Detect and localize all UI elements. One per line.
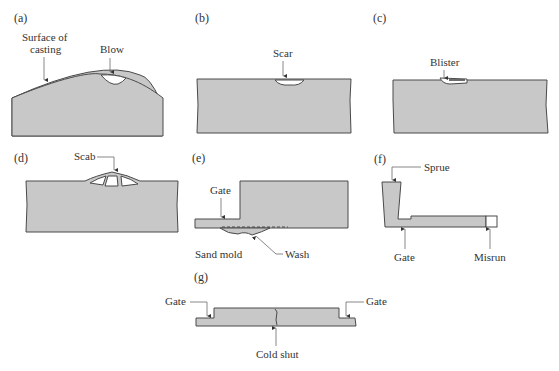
panel-c-blister: (c) Blister	[373, 11, 548, 133]
wash-region	[220, 228, 270, 235]
label-gate-right: Gate	[366, 295, 387, 307]
casting-body	[382, 182, 486, 227]
arrow-sprue	[392, 167, 421, 180]
panel-a-blow: (a) Surface of casting Blow	[12, 11, 163, 136]
arrow-scab	[97, 157, 114, 170]
label-surface-of: Surface of	[22, 31, 68, 43]
label-wash: Wash	[285, 248, 310, 260]
panel-label-a: (a)	[14, 11, 27, 25]
casting-body	[393, 80, 548, 133]
panel-label-b: (b)	[195, 11, 209, 25]
panel-label-f: (f)	[374, 152, 386, 166]
panel-e-wash: (e) Gate Sand mold Wash	[192, 151, 348, 260]
panel-label-e: (e)	[192, 151, 205, 165]
label-sand-mold: Sand mold	[195, 248, 243, 260]
panel-b-scar: (b) Scar	[195, 11, 351, 133]
label-misrun: Misrun	[474, 251, 506, 263]
label-blow: Blow	[100, 43, 124, 55]
arrow-gate-left	[190, 302, 207, 316]
panel-label-g: (g)	[194, 270, 208, 284]
label-cold-shut: Cold shut	[256, 348, 298, 360]
panel-f-misrun: (f) Sprue Gate Misrun	[374, 152, 506, 263]
panel-d-scab: (d) Scab	[14, 150, 178, 232]
panel-g-cold-shut: (g) Gate Gate Cold shut	[165, 270, 387, 360]
panel-label-d: (d)	[14, 151, 28, 165]
arrow-wash	[256, 236, 283, 254]
label-gate: Gate	[394, 251, 415, 263]
label-blister: Blister	[430, 56, 460, 68]
label-casting: casting	[30, 43, 62, 55]
label-gate-left: Gate	[165, 295, 186, 307]
panel-label-c: (c)	[373, 11, 386, 25]
label-sprue: Sprue	[424, 161, 450, 173]
misrun-unfilled	[486, 216, 497, 227]
arrow-gate-right	[346, 302, 364, 316]
blister-void	[440, 78, 467, 84]
casting-body	[197, 79, 351, 133]
label-scar: Scar	[273, 47, 293, 59]
casting-defects-diagram: (a) Surface of casting Blow (b) Scar (c)…	[0, 0, 559, 371]
label-scab: Scab	[74, 150, 96, 162]
label-gate: Gate	[210, 184, 231, 196]
